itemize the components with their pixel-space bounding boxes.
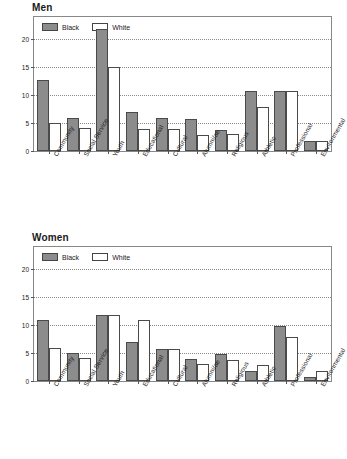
y-axis-tick-label: 20 <box>0 266 29 273</box>
bar-black[interactable] <box>185 119 197 151</box>
bar-groups-men <box>34 17 331 151</box>
plot-area-men: Black White 05101520 <box>33 16 332 152</box>
bar-group[interactable] <box>272 17 302 151</box>
bar-group[interactable] <box>183 17 213 151</box>
bar-black[interactable] <box>274 326 286 381</box>
bar-black[interactable] <box>185 359 197 381</box>
y-axis-tick-label: 0 <box>0 148 29 155</box>
plot-area-women: Black White 05101520 <box>33 246 332 382</box>
bar-group[interactable] <box>183 247 213 381</box>
bar-black[interactable] <box>37 80 49 151</box>
y-axis-tick-label: 5 <box>0 350 29 357</box>
panel-title-men: Men <box>32 2 53 13</box>
bar-black[interactable] <box>126 342 138 381</box>
y-axis-tick-label: 0 <box>0 378 29 385</box>
bar-group[interactable] <box>272 247 302 381</box>
y-axis-tick-mark <box>31 151 34 152</box>
bar-group[interactable] <box>34 247 64 381</box>
bar-group[interactable] <box>123 247 153 381</box>
panel-title-women: Women <box>32 232 69 243</box>
bar-black[interactable] <box>274 91 286 151</box>
chart-panel-men: Men Percentage of Matriculants Black Whi… <box>0 0 342 229</box>
bar-black[interactable] <box>245 91 257 151</box>
x-axis-labels-men: CommunitySocial ServiceYouthEducationalC… <box>33 154 332 228</box>
chart-panel-women: Women Percentage of Matriculants Black W… <box>0 230 342 459</box>
bar-group[interactable] <box>34 17 64 151</box>
bar-black[interactable] <box>37 320 49 381</box>
bar-black[interactable] <box>304 141 316 151</box>
bar-groups-women <box>34 247 331 381</box>
bar-black[interactable] <box>126 112 138 151</box>
y-axis-tick-label: 15 <box>0 64 29 71</box>
bar-group[interactable] <box>123 17 153 151</box>
x-axis-labels-women: CommunitySocial ServiceYouthEducationalC… <box>33 384 332 458</box>
y-axis-tick-label: 20 <box>0 36 29 43</box>
y-axis-tick-label: 15 <box>0 294 29 301</box>
y-axis-tick-label: 10 <box>0 322 29 329</box>
y-axis-tick-mark <box>31 381 34 382</box>
bar-black[interactable] <box>245 371 257 381</box>
y-axis-tick-label: 10 <box>0 92 29 99</box>
y-axis-tick-label: 5 <box>0 120 29 127</box>
bar-black[interactable] <box>304 377 316 381</box>
